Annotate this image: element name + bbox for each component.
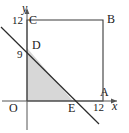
point-label-C: C: [29, 14, 37, 26]
point-label-D: D: [32, 39, 41, 51]
point-label-B: B: [107, 13, 115, 25]
point-label-E: E: [68, 102, 75, 114]
point-label-A: A: [100, 86, 109, 98]
x-axis-label: x: [112, 100, 117, 112]
shaded-triangle-ODE: [27, 48, 73, 101]
y-tick-label-9: 9: [17, 49, 23, 60]
x-tick-label-12: 12: [93, 102, 104, 113]
y-tick-label-12: 12: [12, 15, 23, 26]
y-axis-label: y: [22, 2, 27, 14]
origin-label: O: [9, 102, 18, 114]
geometry-figure: y x C B A D E O 12 9 12: [0, 0, 129, 133]
